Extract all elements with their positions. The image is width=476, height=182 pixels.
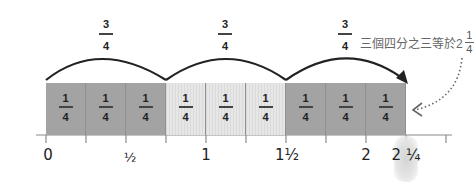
jump-label-3: 3 4 [335, 18, 355, 52]
quarter-box: 14 [366, 83, 406, 135]
box-numerator: 1 [102, 92, 108, 104]
axis-label-2-quarter: 2 ¼ [392, 146, 421, 164]
quarter-box: 14 [286, 83, 326, 135]
quarter-box: 14 [166, 83, 206, 135]
axis-label-1: 1 [201, 146, 211, 164]
axis-label-2: 2 [361, 146, 371, 164]
box-denominator: 4 [342, 111, 348, 123]
quarter-box: 14 [246, 83, 286, 135]
axis-label-half: ½ [124, 150, 137, 165]
answer-annotation: 三個四分之三等於2 1 4 [360, 30, 474, 55]
quarter-box: 14 [86, 83, 126, 135]
box-numerator: 1 [302, 92, 308, 104]
box-denominator: 4 [302, 111, 308, 123]
jump-numerator: 3 [222, 18, 228, 30]
quarter-box: 14 [206, 83, 246, 135]
jump-arc-2 [166, 59, 286, 80]
jump-denominator: 4 [222, 40, 228, 52]
box-numerator: 1 [262, 92, 268, 104]
fraction-bar [59, 106, 73, 108]
box-numerator: 1 [382, 92, 388, 104]
fraction-bar [179, 106, 193, 108]
fraction-bar [338, 33, 352, 35]
annotation-fraction: 1 4 [465, 30, 474, 55]
box-numerator: 1 [222, 92, 228, 104]
box-numerator: 1 [62, 92, 68, 104]
fraction-bar [339, 106, 353, 108]
jump-arc-3 [286, 58, 402, 80]
box-denominator: 4 [62, 111, 68, 123]
quarter-box: 14 [126, 83, 166, 135]
axis-label-1-half: 1½ [275, 146, 299, 164]
box-numerator: 1 [142, 92, 148, 104]
fraction-bar [259, 106, 273, 108]
fraction-bar [218, 33, 232, 35]
fraction-bar [139, 106, 153, 108]
box-denominator: 4 [142, 111, 148, 123]
box-numerator: 1 [342, 92, 348, 104]
annotation-numerator: 1 [466, 30, 472, 41]
arrowhead-icon [396, 70, 408, 84]
jump-numerator: 3 [103, 18, 109, 30]
axis-ticks [46, 135, 446, 143]
fraction-bar [379, 106, 393, 108]
fraction-bar [99, 33, 113, 35]
box-denominator: 4 [182, 111, 188, 123]
quarter-box: 14 [46, 83, 86, 135]
box-denominator: 4 [222, 111, 228, 123]
fraction-bar [99, 106, 113, 108]
box-numerator: 1 [182, 92, 188, 104]
jump-arc-1 [46, 59, 166, 80]
dotted-pointer-arrow [415, 58, 462, 110]
annotation-denominator: 4 [466, 44, 472, 55]
quarter-box: 14 [326, 83, 366, 135]
box-denominator: 4 [382, 111, 388, 123]
jump-label-2: 3 4 [215, 18, 235, 52]
fraction-bar [299, 106, 313, 108]
jump-numerator: 3 [342, 18, 348, 30]
jump-denominator: 4 [103, 40, 109, 52]
axis-label-0: 0 [43, 146, 53, 164]
box-denominator: 4 [102, 111, 108, 123]
jump-denominator: 4 [342, 40, 348, 52]
jump-label-1: 3 4 [96, 18, 116, 52]
box-denominator: 4 [262, 111, 268, 123]
number-line-diagram: 3 4 3 4 3 4 三個四分之三等於2 1 4 14 14 14 14 14… [0, 0, 476, 182]
annotation-text: 三個四分之三等於2 [360, 34, 463, 51]
fraction-bar [219, 106, 233, 108]
